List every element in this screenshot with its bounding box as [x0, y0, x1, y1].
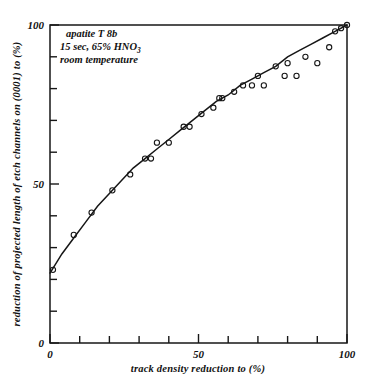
- x-tick-label: 50: [193, 348, 205, 360]
- chart-figure: 050100 050100 apatite T 8b 15 sec, 65% H…: [0, 0, 370, 387]
- y-tick-label: 0: [39, 337, 45, 349]
- x-tick-label: 100: [339, 348, 356, 360]
- annotation-line-3: room temperature: [60, 54, 138, 65]
- chart-background: [0, 0, 370, 387]
- y-axis-title: reduction of projected length of etch ch…: [11, 42, 23, 327]
- y-tick-label: 100: [28, 19, 45, 31]
- y-tick-label: 50: [33, 178, 45, 190]
- annotation-line-2-text: 15 sec, 65% HNO: [60, 41, 137, 52]
- annotation-line-1: apatite T 8b: [66, 28, 117, 39]
- x-tick-label: 0: [47, 348, 53, 360]
- x-axis-title: track density reduction to (%): [131, 363, 265, 375]
